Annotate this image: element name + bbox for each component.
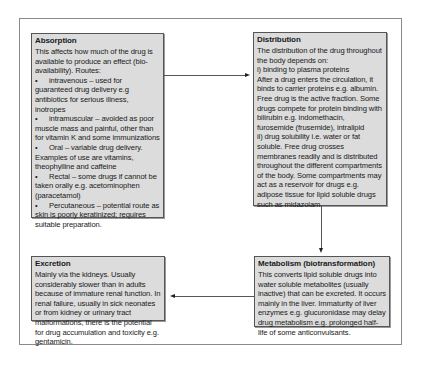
excretion-title: Excretion (35, 259, 161, 269)
distribution-line: i) binding to plasma proteins (257, 65, 383, 75)
metabolism-box: Metabolism (biotransformation) This conv… (254, 256, 390, 327)
absorption-intro: This affects how much of the drug is ava… (35, 47, 160, 76)
arrow-metabolism-to-excretion (173, 296, 254, 297)
absorption-title: Absorption (35, 36, 160, 46)
route-item: •intramuscular – avoided as poor muscle … (35, 114, 160, 143)
route-text: intravenous – used for guaranteed drug d… (35, 76, 129, 114)
distribution-box: Distribution The distribution of the dru… (253, 32, 387, 206)
distribution-line: The distribution of the drug throughout … (257, 46, 383, 65)
route-item: •Oral – variable drug delivery. Examples… (35, 143, 160, 172)
route-item: •Percutaneous – potential route as skin … (35, 201, 160, 230)
route-text: Percutaneous – potential route as skin i… (35, 201, 159, 229)
distribution-line: After a drug enters the circulation, it … (257, 75, 383, 133)
route-item: •Rectal – some drugs if cannot be taken … (35, 172, 160, 201)
bullet-icon: • (35, 143, 49, 153)
arrowhead-left-icon (170, 294, 175, 298)
route-text: Rectal – some drugs if cannot be taken o… (35, 172, 157, 200)
bullet-icon: • (35, 114, 49, 124)
absorption-box: Absorption This affects how much of the … (31, 33, 164, 218)
route-item: •intravenous – used for guaranteed drug … (35, 76, 160, 114)
distribution-line: ii) drug solubility i.e. water or fat so… (257, 132, 383, 209)
arrowhead-right-icon (245, 73, 250, 77)
bullet-icon: • (35, 201, 49, 211)
absorption-routes-list: •intravenous – used for guaranteed drug … (35, 76, 160, 230)
metabolism-text: This converts lipid soluble drugs into w… (258, 270, 386, 337)
distribution-title: Distribution (257, 35, 383, 45)
arrow-distribution-to-metabolism (321, 206, 322, 250)
arrowhead-down-icon (319, 248, 323, 253)
bullet-icon: • (35, 172, 49, 182)
bullet-icon: • (35, 76, 49, 86)
route-text: intramuscular – avoided as poor muscle m… (35, 114, 160, 142)
route-text: Oral – variable drug delivery. Examples … (35, 143, 143, 171)
arrow-absorption-to-distribution (164, 75, 247, 76)
excretion-box: Excretion Mainly via the kidneys. Usuall… (31, 256, 165, 321)
excretion-text: Mainly via the kidneys. Usually consider… (35, 270, 161, 347)
metabolism-title: Metabolism (biotransformation) (258, 259, 386, 269)
